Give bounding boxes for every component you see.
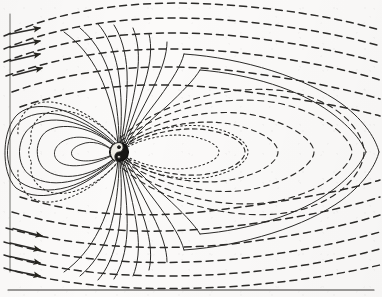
solar-wind-streamlines-top (4, 3, 380, 116)
solar-wind-arrowheads-bottom (10, 229, 42, 277)
figure-magnetosphere (0, 0, 382, 297)
closed-field-loops-dashed (120, 89, 364, 214)
polar-cusp-lines-south (64, 156, 200, 280)
solar-wind-arrowheads-top (10, 28, 42, 76)
scanned-page (0, 0, 382, 297)
tail-field-lines-solid (184, 54, 379, 250)
dayside-compressed-lines (54, 137, 112, 166)
magnetopause-outer-lines (5, 106, 118, 195)
planet-body (110, 143, 129, 162)
